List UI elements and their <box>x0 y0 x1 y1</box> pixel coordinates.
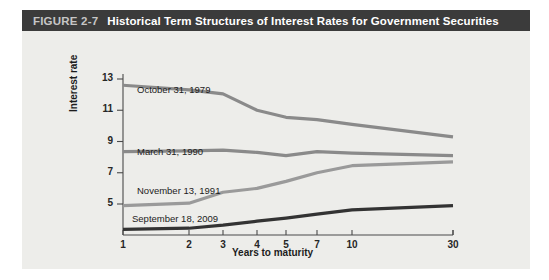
x-axis-tick-label: 1 <box>109 239 137 250</box>
y-axis-tick-label: 13 <box>87 72 113 83</box>
x-axis-title: Years to maturity <box>232 247 313 258</box>
series-layer <box>123 85 453 229</box>
series-annotation-label: October 31, 1979 <box>137 84 210 95</box>
y-axis-tick-label: 11 <box>87 103 113 114</box>
x-axis-tick-label: 10 <box>338 239 366 250</box>
series-annotation-label: September 18, 2009 <box>132 213 218 224</box>
figure-container: FIGURE 2-7 Historical Term Structures of… <box>0 0 549 280</box>
y-axis-tick-label: 9 <box>87 135 113 146</box>
series-line <box>123 162 453 206</box>
series-annotation-label: November 13, 1991 <box>137 185 220 196</box>
x-axis-tick-label: 30 <box>439 239 467 250</box>
chart-plot <box>0 0 549 280</box>
y-axis-title: Interest rate <box>68 55 79 112</box>
y-axis-tick-label: 7 <box>87 166 113 177</box>
series-annotation-label: March 31, 1990 <box>137 146 203 157</box>
x-axis-tick-label: 2 <box>175 239 203 250</box>
y-axis-tick-label: 5 <box>87 197 113 208</box>
